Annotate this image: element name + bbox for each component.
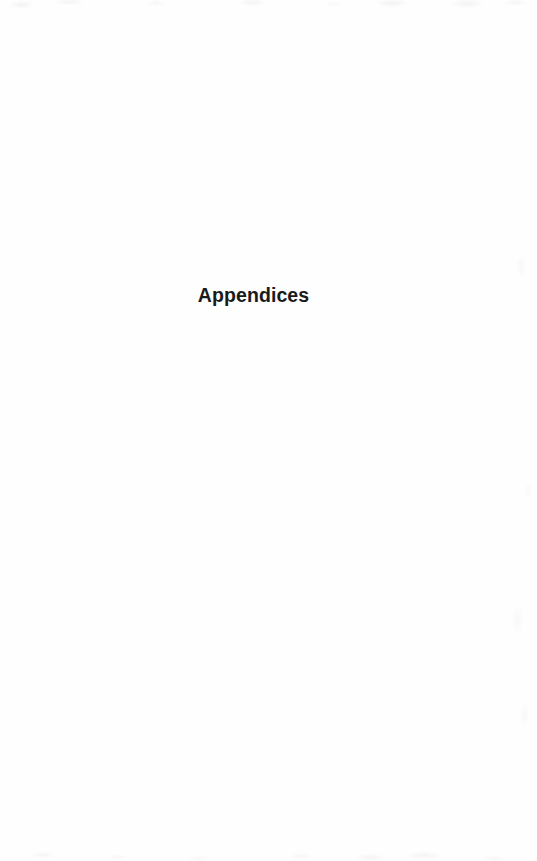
scan-artifact-right-edge (481, 0, 537, 861)
scan-artifact-top-edge (0, 0, 537, 26)
section-divider-heading-block: Appendices (0, 283, 507, 307)
scanned-page: Appendices (0, 0, 537, 861)
scan-artifact-bottom-edge (0, 827, 537, 861)
page-title: Appendices (0, 283, 507, 307)
